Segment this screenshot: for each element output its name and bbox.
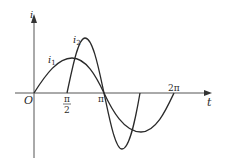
waveform-diagram: i t O π 2 π 2π i1 i2 [0,0,227,165]
tick-label-pi: π [98,94,104,104]
tick-label-2pi: 2π [168,83,180,93]
curve-label-i1: i1 [48,54,56,67]
y-axis-label: i [30,9,33,20]
origin-label: O [24,94,33,107]
tick-label-pi-over-2-num: π [64,94,70,104]
tick-label-pi-over-2-den: 2 [64,105,70,115]
x-axis-label: t [207,96,212,109]
curve-label-i2: i2 [73,34,81,47]
